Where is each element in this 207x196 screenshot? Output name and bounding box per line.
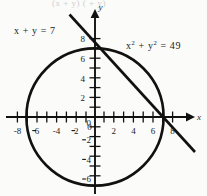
circle-equation-label: x2 + y2 = 49 [126,40,181,51]
y-tick-label: 8 [81,34,86,44]
circle-eq-text: x2 + y2 = 49 [126,40,181,51]
y-tick-label: 2 [87,135,92,145]
y-tick-label: 2 [81,93,86,103]
y-origin-label: 0 [87,118,92,128]
y-tick-label: 4 [81,74,86,84]
x-tick-label: -8 [14,126,22,136]
x-tick-label: 4 [131,126,136,136]
y-tick-label: 6 [81,54,86,64]
y-negative-signs [82,140,86,179]
y-tick-label: 6 [87,174,92,184]
x-axis-arrow [186,113,195,122]
graph-figure: (x + y) ( + y) [0,0,207,196]
line-equation-label: x + y = 7 [14,25,56,36]
x-tick-label: 6 [151,126,156,136]
y-axis-name: y [98,2,103,12]
x-axis-name: x [196,112,201,122]
y-tick-labels: 2 4 6 8 2 4 6 0 [81,34,92,184]
x-tick-label: 8 [170,126,175,136]
x-tick-label: -4 [53,126,61,136]
y-tick-label: 4 [87,155,92,165]
x-tick-label: 2 [112,126,117,136]
